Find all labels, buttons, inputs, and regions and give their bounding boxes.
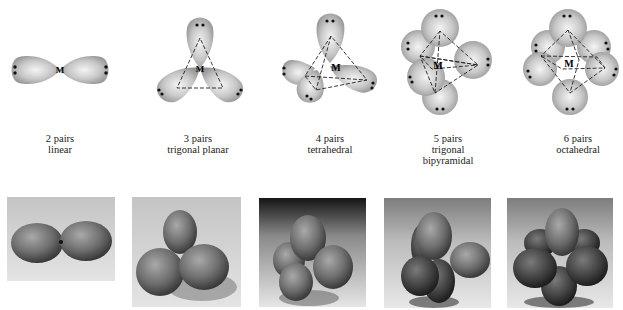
tetrahedral-orbital-diagram: M xyxy=(275,8,385,108)
label-linear: 2 pairs linear xyxy=(5,133,115,155)
center-atom-label: M xyxy=(196,64,205,74)
octahedral-orbital-diagram: M xyxy=(522,5,623,115)
geometry-name-line2: bipyramidal xyxy=(393,155,503,166)
pairs-count: 6 pairs xyxy=(523,133,623,144)
trigonal-bipyramidal-orbital-diagram: M xyxy=(398,5,508,115)
geometry-name: tetrahedral xyxy=(275,144,385,155)
geometry-name-line1: trigonal xyxy=(393,144,503,155)
center-atom-label: M xyxy=(56,65,65,75)
photo-balloon-trigonal-bipyramidal xyxy=(384,198,491,308)
label-tetrahedral: 4 pairs tetrahedral xyxy=(275,133,385,155)
photo-balloon-linear xyxy=(7,197,115,281)
pairs-count: 5 pairs xyxy=(393,133,503,144)
pairs-count: 3 pairs xyxy=(143,133,253,144)
photo-balloon-octahedral xyxy=(507,198,613,308)
geometry-name: octahedral xyxy=(523,144,623,155)
photo-balloon-tetrahedral xyxy=(259,198,366,307)
geometry-name: trigonal planar xyxy=(143,144,253,155)
pairs-count: 2 pairs xyxy=(5,133,115,144)
center-atom-label: M xyxy=(331,62,341,73)
trigonal-planar-orbital-diagram: M xyxy=(145,10,255,105)
label-trigonal-bipyramidal: 5 pairs trigonal bipyramidal xyxy=(393,133,503,166)
linear-orbital-diagram: M xyxy=(5,45,115,95)
label-octahedral: 6 pairs octahedral xyxy=(523,133,623,155)
label-trigonal-planar: 3 pairs trigonal planar xyxy=(143,133,253,155)
center-atom-label: M xyxy=(564,58,574,69)
geometry-name: linear xyxy=(5,144,115,155)
pairs-count: 4 pairs xyxy=(275,133,385,144)
photo-balloon-trigonal-planar xyxy=(132,197,241,307)
center-atom-label: M xyxy=(433,60,443,71)
